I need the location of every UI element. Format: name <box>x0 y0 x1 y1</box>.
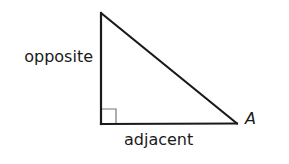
right-angle-marker <box>101 109 116 124</box>
hypotenuse <box>101 13 237 124</box>
adjacent-side <box>101 124 237 125</box>
vertex-a-label: A <box>245 111 256 127</box>
right-triangle-diagram: opposite adjacent A <box>0 0 289 164</box>
opposite-label: opposite <box>24 49 93 65</box>
adjacent-label: adjacent <box>124 132 193 148</box>
